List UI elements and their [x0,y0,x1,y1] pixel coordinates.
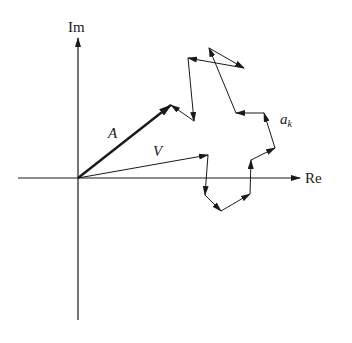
component-phasor-chain [171,48,275,211]
vector-a-arrow [78,105,171,178]
component-phasor-arrow [250,160,251,194]
component-phasor-arrow [188,58,194,121]
real-axis-label: Re [305,170,322,186]
component-phasor-arrow [251,148,275,160]
component-phasor-arrow [209,48,236,113]
vector-v-label: V [153,143,164,159]
component-label: ak [280,111,293,129]
component-phasor-arrow [264,113,275,148]
imaginary-axis-label: Im [68,19,85,35]
vector-v-arrow [78,155,208,178]
component-phasor-arrow [205,195,221,211]
component-phasor-arrow [171,105,194,121]
component-phasor-arrow [221,194,250,211]
phasor-diagram: Re Im A V ak [0,0,352,343]
vector-a-label: A [107,125,118,141]
component-phasor-arrow [205,155,208,195]
